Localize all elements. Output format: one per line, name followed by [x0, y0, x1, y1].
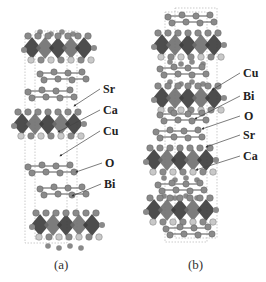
atom: [43, 210, 50, 217]
atom: [11, 123, 17, 129]
atom: [29, 170, 35, 176]
panel-a-structure: [11, 29, 105, 251]
atom: [57, 170, 63, 176]
atom: [71, 94, 77, 100]
atom: [193, 13, 199, 19]
atom: [191, 225, 197, 231]
atom: [187, 145, 194, 152]
atom: [165, 14, 171, 20]
atom: [207, 195, 214, 202]
atom: [165, 30, 172, 37]
atom: [189, 72, 195, 78]
atom: [153, 129, 159, 135]
atom: [51, 184, 57, 190]
atom: [175, 71, 181, 77]
label-a-bi: Bi: [104, 178, 115, 190]
atom: [168, 54, 175, 61]
label-b-o: O: [244, 110, 253, 122]
atom: [209, 231, 215, 237]
atom: [211, 19, 217, 25]
atom: [45, 109, 52, 116]
atom: [67, 243, 73, 249]
atom: [171, 134, 177, 140]
atom: [171, 64, 177, 70]
atom: [183, 175, 189, 181]
atom: [189, 59, 195, 65]
cuo-polyhedron: [75, 37, 93, 59]
atom: [189, 118, 195, 124]
atom: [38, 57, 45, 64]
atom: [57, 95, 63, 101]
atom: [28, 133, 35, 140]
atom: [66, 234, 73, 241]
atom: [205, 224, 211, 230]
atom: [203, 71, 209, 77]
atom: [55, 33, 62, 40]
atom: [46, 234, 53, 241]
atom: [161, 175, 167, 181]
atom: [25, 33, 32, 40]
atom: [96, 234, 103, 241]
atom: [151, 44, 157, 50]
atom: [83, 191, 89, 197]
atom: [157, 195, 164, 202]
atom: [178, 107, 185, 114]
atom: [147, 195, 154, 202]
cuo-polyhedron: [83, 214, 101, 236]
atom: [75, 33, 82, 40]
atom: [215, 30, 222, 37]
atom: [151, 97, 157, 103]
atom: [197, 20, 203, 26]
atom: [200, 169, 207, 176]
atom: [167, 59, 173, 65]
atom: [155, 182, 161, 188]
atom: [171, 110, 177, 116]
atom: [200, 219, 207, 226]
atom: [157, 135, 163, 141]
atom: [178, 61, 184, 67]
atom: [160, 219, 167, 226]
atom: [177, 195, 184, 202]
atom: [185, 135, 191, 141]
atom: [65, 109, 72, 116]
atom: [205, 30, 212, 37]
cuo-polyhedron: [205, 34, 223, 56]
atom: [73, 210, 80, 217]
atom: [185, 65, 191, 71]
caption-a: (a): [54, 258, 68, 271]
label-b-ca: Ca: [243, 150, 258, 162]
atom: [143, 209, 149, 215]
atom: [58, 133, 65, 140]
atom: [37, 71, 43, 77]
atom: [175, 83, 182, 90]
atom: [48, 57, 55, 64]
atom: [83, 76, 89, 82]
caption-b: (b): [188, 258, 203, 271]
atom: [221, 95, 227, 101]
atom: [203, 117, 209, 123]
atom: [205, 83, 212, 90]
atom: [85, 33, 92, 40]
atom: [183, 19, 189, 25]
atom: [35, 33, 42, 40]
atom: [198, 54, 205, 61]
atom: [36, 234, 43, 241]
atom: [75, 109, 82, 116]
atom: [175, 117, 181, 123]
atom: [199, 134, 205, 140]
atom: [195, 127, 201, 133]
atom: [169, 20, 175, 26]
atom: [188, 54, 195, 61]
atom: [195, 232, 201, 238]
atom: [177, 224, 183, 230]
atom: [53, 210, 60, 217]
atom: [179, 12, 185, 18]
atom: [185, 30, 192, 37]
atom: [157, 66, 163, 72]
atom: [91, 45, 97, 51]
label-a-ca: Ca: [103, 104, 118, 116]
atom: [213, 207, 219, 213]
atom: [155, 30, 162, 37]
atom: [55, 76, 61, 82]
atom: [29, 224, 35, 230]
